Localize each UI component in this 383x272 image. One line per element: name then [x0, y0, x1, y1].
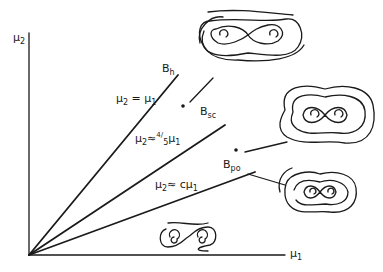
phase-portrait-top	[199, 10, 304, 60]
y-axis-label: μ2	[13, 31, 25, 44]
pointer-top	[190, 78, 213, 102]
x-axis-label: μ1	[290, 247, 302, 260]
diagram-graphics	[0, 0, 383, 272]
curve-label-b-h: Bh	[162, 62, 175, 75]
phase-portrait-bottom	[160, 223, 216, 251]
region-dot-1	[181, 104, 185, 108]
pointer-middle	[245, 142, 287, 152]
region-dot-2	[234, 148, 238, 152]
equation-b-sc: μ2≈4/5μ1	[135, 132, 180, 145]
bifurcation-diagram: μ2 μ1 Bh Bsc Bpo μ2 = μ1 μ2≈4/5μ1 μ2≈ cμ…	[0, 0, 383, 272]
curve-label-b-po: Bpo	[223, 158, 241, 171]
equation-b-h: μ2 = μ1	[116, 92, 156, 105]
equation-b-po: μ2≈ cμ1	[155, 178, 198, 191]
phase-portrait-lower	[279, 168, 356, 212]
phase-portrait-middle	[280, 86, 374, 143]
curve-label-b-sc: Bsc	[200, 105, 216, 118]
pointer-lower	[248, 174, 285, 185]
